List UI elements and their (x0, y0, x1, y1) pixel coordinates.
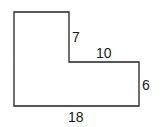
label-notch-width: 10 (96, 45, 112, 61)
label-bottom: 18 (68, 109, 84, 125)
l-shape-diagram: 7 10 6 18 (0, 0, 161, 127)
l-shape-outline (14, 12, 139, 106)
label-right-side: 6 (142, 77, 150, 93)
label-notch-height: 7 (72, 29, 80, 45)
